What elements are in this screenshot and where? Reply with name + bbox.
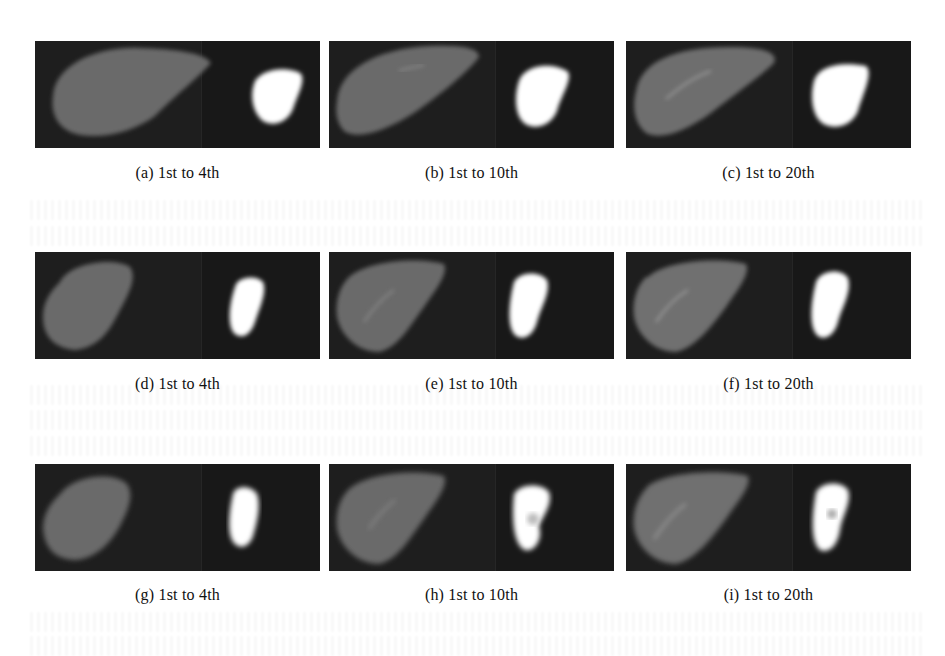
panel-caption: (h) 1st to 10th [329, 586, 614, 604]
figure-panel-a [35, 41, 320, 148]
panel-caption: (g) 1st to 4th [35, 586, 320, 604]
liver-and-segmentation-shapes [329, 41, 614, 148]
bleed-through-text [30, 636, 925, 656]
figure-panel-e [329, 252, 614, 359]
bleed-through-text [30, 612, 925, 632]
figure-panel-i [626, 464, 911, 571]
panel-caption: (e) 1st to 10th [329, 375, 614, 393]
panel-caption: (b) 1st to 10th [329, 164, 614, 182]
figure-panel-c [626, 41, 911, 148]
liver-and-segmentation-shapes [35, 41, 320, 148]
panel-caption: (c) 1st to 20th [626, 164, 911, 182]
figure-panel-h [329, 464, 614, 571]
figure-panel-f [626, 252, 911, 359]
figure-panel-d [35, 252, 320, 359]
bleed-through-text [30, 226, 925, 246]
panel-caption: (a) 1st to 4th [35, 164, 320, 182]
liver-and-segmentation-shapes [35, 252, 320, 359]
liver-and-segmentation-shapes [626, 41, 911, 148]
liver-and-segmentation-shapes [626, 464, 911, 571]
figure-panel-g [35, 464, 320, 571]
bleed-through-text [30, 436, 925, 456]
panel-caption: (d) 1st to 4th [35, 375, 320, 393]
liver-and-segmentation-shapes [329, 252, 614, 359]
liver-and-segmentation-shapes [329, 464, 614, 571]
liver-and-segmentation-shapes [626, 252, 911, 359]
liver-and-segmentation-shapes [35, 464, 320, 571]
figure-panel-b [329, 41, 614, 148]
bleed-through-text [30, 200, 925, 220]
bleed-through-text [30, 410, 925, 430]
panel-caption: (f) 1st to 20th [626, 375, 911, 393]
panel-caption: (i) 1st to 20th [626, 586, 911, 604]
